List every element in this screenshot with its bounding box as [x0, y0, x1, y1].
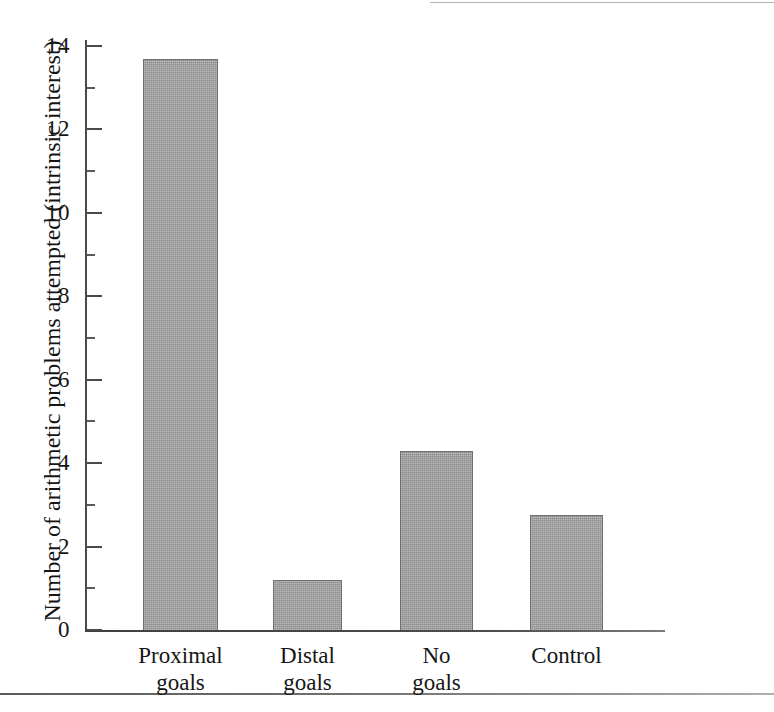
- x-category-label: Control: [477, 642, 657, 669]
- bar: [143, 59, 218, 630]
- y-tick-minor: [87, 504, 95, 506]
- y-tick-minor: [87, 587, 95, 589]
- y-tick-minor: [87, 420, 95, 422]
- y-tick-label: 4: [30, 451, 70, 474]
- y-tick-label: 0: [30, 618, 70, 641]
- y-tick-minor: [87, 254, 95, 256]
- x-axis-line: [85, 630, 665, 632]
- bar: [400, 451, 473, 630]
- y-tick-label: 6: [30, 368, 70, 391]
- y-tick-major: [87, 295, 102, 297]
- y-tick-minor: [87, 337, 95, 339]
- y-tick-label: 10: [30, 201, 70, 224]
- y-tick-label: 2: [30, 535, 70, 558]
- figure-bar-chart: Number of arithmetic problems attempted …: [0, 0, 774, 712]
- x-category-label-line: Control: [477, 642, 657, 669]
- y-tick-major: [87, 379, 102, 381]
- y-tick-label: 12: [30, 117, 70, 140]
- y-tick-major: [87, 45, 102, 47]
- bar: [273, 580, 342, 630]
- y-tick-major: [87, 629, 102, 631]
- y-tick-major: [87, 546, 102, 548]
- y-tick-label: 14: [30, 34, 70, 57]
- x-category-label-line: goals: [347, 669, 527, 696]
- y-tick-label: 8: [30, 284, 70, 307]
- bar: [530, 515, 603, 630]
- y-tick-major: [87, 462, 102, 464]
- y-tick-major: [87, 128, 102, 130]
- y-tick-minor: [87, 87, 95, 89]
- y-tick-minor: [87, 170, 95, 172]
- y-tick-major: [87, 212, 102, 214]
- plot-area: Number of arithmetic problems attempted …: [0, 0, 774, 712]
